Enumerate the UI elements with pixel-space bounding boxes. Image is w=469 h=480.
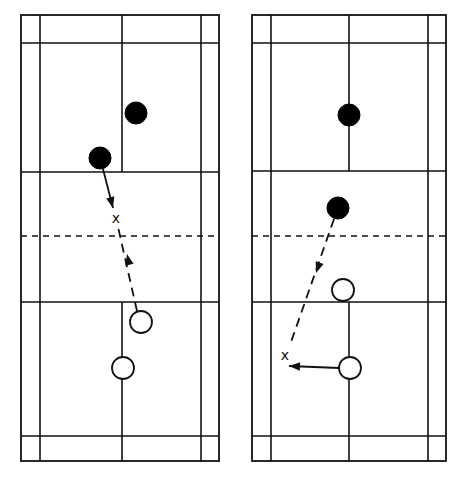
player-filled-icon (89, 147, 111, 169)
arrow-icon (125, 254, 133, 266)
badminton-diagram: x x (0, 0, 469, 480)
player-filled-icon (125, 102, 147, 124)
player-open-icon (112, 357, 134, 379)
arrow-icon (316, 261, 324, 273)
court-left: x (21, 15, 219, 461)
player-filled-icon (338, 104, 360, 126)
court-boundary (21, 15, 219, 461)
player-filled-icon (327, 197, 349, 219)
movement-path (118, 227, 137, 311)
court-right: x (252, 15, 446, 461)
shuttle-landing-mark: x (112, 210, 120, 226)
player-open-icon (130, 311, 152, 333)
player-open-icon (339, 357, 361, 379)
arrow-icon (289, 362, 300, 370)
movement-path (290, 219, 334, 345)
arrow-icon (106, 196, 114, 208)
shuttle-landing-mark: x (281, 347, 289, 363)
player-open-icon (332, 279, 354, 301)
